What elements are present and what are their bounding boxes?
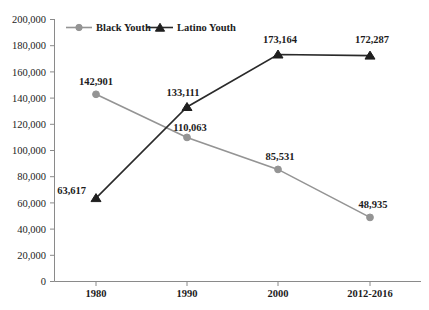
y-tick-label: 100,000 xyxy=(12,145,46,156)
y-tick-label: 200,000 xyxy=(12,14,46,25)
data-label: 110,063 xyxy=(173,122,207,133)
data-label: 63,617 xyxy=(57,185,86,196)
data-label: 173,164 xyxy=(263,34,298,45)
data-point-marker xyxy=(93,91,100,98)
figure-caption xyxy=(0,300,429,310)
data-point-marker xyxy=(275,166,282,173)
data-label: 142,901 xyxy=(79,76,113,87)
x-tick-label-1990: 1990 xyxy=(177,288,198,299)
data-label: 48,935 xyxy=(359,199,388,210)
y-tick-label: 160,000 xyxy=(12,67,46,78)
data-point-marker xyxy=(184,134,191,141)
x-tick-label-2000: 2000 xyxy=(268,288,289,299)
y-tick-label: 60,000 xyxy=(17,198,46,209)
data-label: 133,111 xyxy=(167,87,200,98)
x-tick-label-1980: 1980 xyxy=(86,288,107,299)
y-tick-label: 20,000 xyxy=(17,250,46,261)
line-chart: 200,000 180,000 160,000 140,000 120,000 … xyxy=(0,0,429,310)
chart-background xyxy=(0,0,429,310)
legend-item-latino-youth[interactable]: Latino Youth xyxy=(147,22,236,33)
y-tick-label: 40,000 xyxy=(17,224,46,235)
y-tick-label: 80,000 xyxy=(17,171,46,182)
y-tick-label: 0 xyxy=(41,276,46,287)
legend-label-latino-youth: Latino Youth xyxy=(177,22,236,33)
circle-marker-icon xyxy=(76,24,82,30)
y-tick-label: 120,000 xyxy=(12,119,46,130)
legend-label-black-youth: Black Youth xyxy=(96,22,151,33)
x-tick-label-2012-2016: 2012-2016 xyxy=(347,288,393,299)
y-tick-label: 140,000 xyxy=(12,93,46,104)
y-tick-label: 180,000 xyxy=(12,40,46,51)
data-point-marker xyxy=(367,214,374,221)
data-label: 85,531 xyxy=(266,151,295,162)
data-label: 172,287 xyxy=(355,34,389,45)
